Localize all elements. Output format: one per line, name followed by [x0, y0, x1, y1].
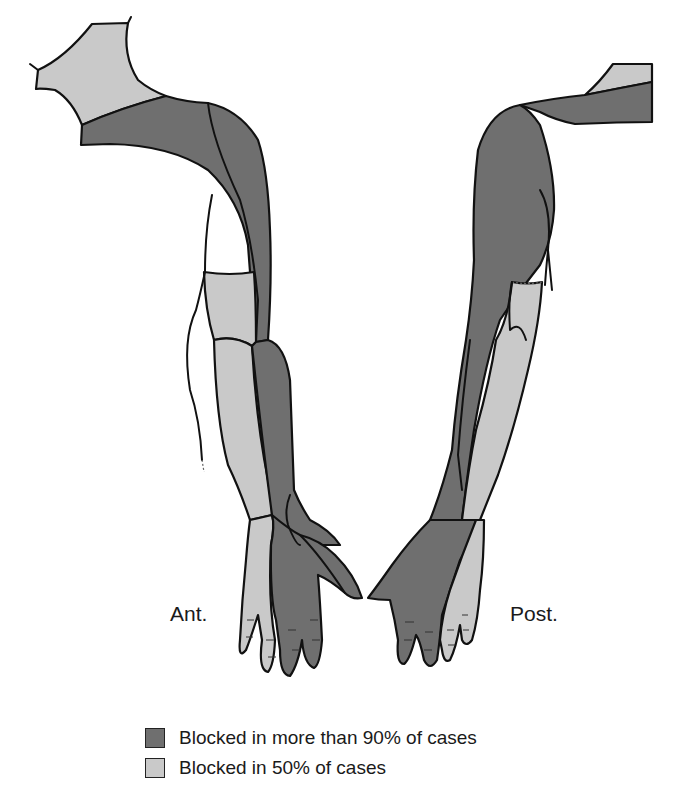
anterior-upper-forearm-light — [204, 272, 256, 346]
legend-label-dark: Blocked in more than 90% of cases — [179, 727, 477, 749]
legend: Blocked in more than 90% of cases Blocke… — [145, 723, 477, 783]
legend-item-light: Blocked in 50% of cases — [145, 753, 477, 783]
anterior-arm — [30, 17, 362, 676]
posterior-arm — [368, 64, 652, 666]
legend-item-dark: Blocked in more than 90% of cases — [145, 723, 477, 753]
anterior-hand-light — [240, 515, 275, 672]
dark-gray-swatch-icon — [145, 728, 165, 748]
posterior-view-label: Post. — [510, 602, 558, 626]
posterior-shoulder-region — [520, 82, 652, 124]
light-gray-swatch-icon — [145, 758, 165, 778]
legend-label-light: Blocked in 50% of cases — [179, 757, 386, 779]
arm-block-diagram — [0, 0, 678, 700]
anterior-view-label: Ant. — [170, 602, 207, 626]
